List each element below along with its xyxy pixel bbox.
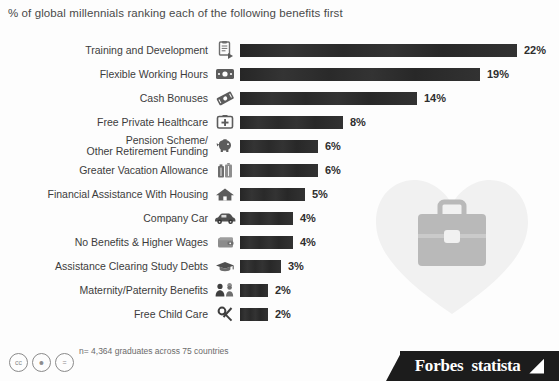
row-label: Cash Bonuses bbox=[0, 93, 210, 104]
bar-area: 4% bbox=[240, 230, 559, 254]
row-label: Financial Assistance With Housing bbox=[0, 189, 210, 200]
bar-area: 14% bbox=[240, 86, 559, 110]
graduation-cap-icon bbox=[210, 255, 240, 277]
bar bbox=[240, 68, 480, 81]
bar bbox=[240, 236, 293, 249]
bar bbox=[240, 284, 268, 297]
table-row: Maternity/Paternity Benefits 2% bbox=[0, 278, 559, 302]
bar-area: 5% bbox=[240, 182, 559, 206]
bar-area: 19% bbox=[240, 62, 559, 86]
bar-value: 4% bbox=[300, 236, 316, 248]
chart-title: % of global millennials ranking each of … bbox=[8, 7, 343, 19]
row-label: No Benefits & Higher Wages bbox=[0, 237, 210, 248]
sample-size-note: n= 4,364 graduates across 75 countries bbox=[79, 346, 229, 356]
bar-value: 22% bbox=[524, 44, 546, 56]
row-label: Free Private Healthcare bbox=[0, 117, 210, 128]
bar-value: 3% bbox=[288, 260, 304, 272]
bar bbox=[240, 260, 281, 273]
bar-area: 6% bbox=[240, 158, 559, 182]
table-row: Assistance Clearing Study Debts 3% bbox=[0, 254, 559, 278]
cc-no-derivatives-icon: = bbox=[55, 353, 74, 372]
bar-rows: Training and Development 22% Flexible Wo… bbox=[0, 38, 559, 326]
row-label: Maternity/Paternity Benefits bbox=[0, 285, 210, 296]
table-row: Training and Development 22% bbox=[0, 38, 559, 62]
forbes-logo: Forbes bbox=[415, 356, 464, 376]
bar bbox=[240, 308, 268, 321]
car-icon bbox=[210, 207, 240, 229]
cash-stack-icon bbox=[210, 63, 240, 85]
cc-attribution-icon: ☻ bbox=[32, 353, 51, 372]
clipboard-icon bbox=[210, 39, 240, 61]
bar bbox=[240, 140, 318, 153]
table-row: Flexible Working Hours 19% bbox=[0, 62, 559, 86]
row-label: Greater Vacation Allowance bbox=[0, 165, 210, 176]
statista-logo: statista bbox=[472, 356, 521, 376]
bar-value: 8% bbox=[350, 116, 366, 128]
bar-area: 4% bbox=[240, 206, 559, 230]
table-row: Free Private Healthcare 8% bbox=[0, 110, 559, 134]
row-label: Free Child Care bbox=[0, 309, 210, 320]
bar bbox=[240, 188, 305, 201]
pacifier-icon bbox=[210, 303, 240, 325]
row-label: Flexible Working Hours bbox=[0, 69, 210, 80]
bar-area: 2% bbox=[240, 278, 559, 302]
money-envelope-icon bbox=[210, 87, 240, 109]
bar bbox=[240, 92, 417, 105]
bar-value: 6% bbox=[325, 164, 341, 176]
table-row: Company Car 4% bbox=[0, 206, 559, 230]
bar-area: 22% bbox=[240, 38, 559, 62]
brand-bar: Forbes statista bbox=[400, 351, 559, 381]
row-label: Pension Scheme/ Other Retirement Funding bbox=[0, 135, 210, 157]
bar bbox=[240, 116, 343, 129]
table-row: Pension Scheme/ Other Retirement Funding… bbox=[0, 134, 559, 158]
bar-value: 6% bbox=[325, 140, 341, 152]
suitcase-luggage-icon bbox=[210, 159, 240, 181]
bar-area: 8% bbox=[240, 110, 559, 134]
table-row: Free Child Care 2% bbox=[0, 302, 559, 326]
bar-value: 4% bbox=[300, 212, 316, 224]
bar bbox=[240, 164, 318, 177]
infographic-chart: % of global millennials ranking each of … bbox=[0, 0, 559, 381]
table-row: Greater Vacation Allowance 6% bbox=[0, 158, 559, 182]
table-row: Financial Assistance With Housing 5% bbox=[0, 182, 559, 206]
creative-commons-badges: cc ☻ = bbox=[9, 353, 74, 372]
bar-value: 5% bbox=[312, 188, 328, 200]
bar-area: 2% bbox=[240, 302, 559, 326]
row-label: Assistance Clearing Study Debts bbox=[0, 261, 210, 272]
house-icon bbox=[210, 183, 240, 205]
bar-value: 2% bbox=[275, 284, 291, 296]
bar-area: 6% bbox=[240, 134, 559, 158]
bar bbox=[240, 44, 517, 57]
bar bbox=[240, 212, 293, 225]
bar-area: 3% bbox=[240, 254, 559, 278]
bar-value: 19% bbox=[487, 68, 509, 80]
row-label: Training and Development bbox=[0, 45, 210, 56]
parent-child-icon bbox=[210, 279, 240, 301]
statista-mark-icon bbox=[529, 359, 544, 374]
first-aid-kit-icon bbox=[210, 111, 240, 133]
table-row: Cash Bonuses 14% bbox=[0, 86, 559, 110]
piggy-bank-icon bbox=[210, 135, 240, 157]
row-label: Company Car bbox=[0, 213, 210, 224]
cc-icon: cc bbox=[9, 353, 28, 372]
bar-value: 2% bbox=[275, 308, 291, 320]
bar-value: 14% bbox=[424, 92, 446, 104]
wallet-icon bbox=[210, 231, 240, 253]
table-row: No Benefits & Higher Wages 4% bbox=[0, 230, 559, 254]
